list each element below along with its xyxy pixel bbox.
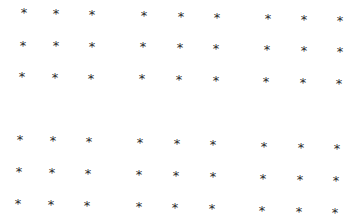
asterisk-icon: * — [297, 77, 309, 89]
asterisk-icon: * — [210, 43, 222, 55]
asterisk-icon: * — [175, 11, 187, 23]
asterisk-icon: * — [18, 7, 30, 19]
asterisk-icon: * — [138, 10, 150, 22]
asterisk-icon: * — [133, 169, 145, 181]
asterisk-icon: * — [171, 138, 183, 150]
asterisk-icon: * — [206, 203, 218, 215]
asterisk-icon: * — [262, 13, 274, 25]
asterisk-icon: * — [50, 40, 62, 52]
asterisk-icon: * — [81, 200, 93, 212]
asterisk-icon: * — [294, 174, 306, 186]
asterisk-icon: * — [85, 73, 97, 85]
asterisk-icon: * — [331, 143, 343, 155]
asterisk-icon: * — [258, 141, 270, 153]
asterisk-icon: * — [136, 73, 148, 85]
asterisk-icon: * — [334, 46, 346, 58]
asterisk-icon: * — [295, 142, 307, 154]
asterisk-icon: * — [298, 14, 310, 26]
asterisk-icon: * — [257, 173, 269, 185]
asterisk-icon: * — [207, 171, 219, 183]
asterisk-icon: * — [329, 207, 341, 219]
asterisk-icon: * — [17, 40, 29, 52]
asterisk-icon: * — [133, 201, 145, 213]
asterisk-icon: * — [14, 134, 26, 146]
asterisk-icon: * — [207, 139, 219, 151]
asterisk-icon: * — [137, 41, 149, 53]
asterisk-icon: * — [83, 136, 95, 148]
asterisk-icon: * — [261, 44, 273, 56]
asterisk-icon: * — [16, 71, 28, 83]
asterisk-icon: * — [13, 166, 25, 178]
asterisk-icon: * — [210, 75, 222, 87]
asterisk-icon: * — [82, 168, 94, 180]
asterisk-icon: * — [49, 72, 61, 84]
asterisk-icon: * — [46, 167, 58, 179]
asterisk-icon: * — [334, 15, 346, 27]
asterisk-icon: * — [211, 12, 223, 24]
asterisk-icon: * — [47, 135, 59, 147]
asterisk-icon: * — [86, 9, 98, 21]
asterisk-icon: * — [86, 41, 98, 53]
asterisk-icon: * — [45, 199, 57, 211]
asterisk-icon: * — [173, 74, 185, 86]
asterisk-icon: * — [256, 205, 268, 217]
asterisk-icon: * — [169, 202, 181, 214]
asterisk-icon: * — [134, 137, 146, 149]
asterisk-icon: * — [333, 78, 345, 90]
asterisk-icon: * — [330, 175, 342, 187]
asterisk-icon: * — [293, 206, 305, 218]
asterisk-icon: * — [12, 198, 24, 210]
asterisk-icon: * — [170, 170, 182, 182]
asterisk-icon: * — [298, 45, 310, 57]
asterisk-icon: * — [50, 8, 62, 20]
asterisk-icon: * — [260, 76, 272, 88]
asterisk-grid: ****************************************… — [0, 0, 358, 221]
asterisk-icon: * — [174, 42, 186, 54]
